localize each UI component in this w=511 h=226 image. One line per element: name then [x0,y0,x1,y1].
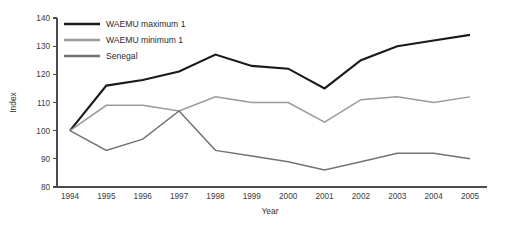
y-tick-label: 90 [41,155,51,164]
x-tick-label: 1998 [206,192,225,201]
series-line-0 [70,35,470,131]
y-axis-ticks: 8090100110120130140 [36,14,57,192]
line-chart: 8090100110120130140 19941995199619971998… [0,0,511,226]
x-tick-label: 1996 [134,192,153,201]
y-tick-label: 120 [36,70,50,79]
chart-legend: WAEMU maximum 1WAEMU minimum 1Senegal [64,19,186,61]
x-tick-label: 1994 [61,192,80,201]
y-tick-label: 80 [41,183,51,192]
series-line-2 [70,111,470,170]
chart-figure: 8090100110120130140 19941995199619971998… [0,0,511,226]
legend-label-0: WAEMU maximum 1 [106,19,186,29]
y-tick-label: 130 [36,42,50,51]
legend-label-1: WAEMU minimum 1 [106,35,183,45]
y-tick-label: 140 [36,14,50,23]
y-axis-title: Index [8,91,18,112]
series-line-1 [70,97,470,131]
x-tick-label: 2003 [388,192,407,201]
x-tick-label: 2005 [461,192,480,201]
x-tick-label: 1997 [170,192,189,201]
y-tick-label: 110 [37,99,50,108]
x-tick-label: 2002 [352,192,371,201]
x-tick-label: 2000 [279,192,298,201]
y-tick-label: 100 [36,127,50,136]
x-tick-label: 2001 [315,192,334,201]
legend-label-2: Senegal [106,51,138,61]
x-axis-ticks: 1994199519961997199819992000200120022003… [61,192,480,201]
x-tick-label: 1999 [243,192,262,201]
x-tick-label: 1995 [97,192,116,201]
x-axis-title: Year [262,206,279,216]
x-tick-label: 2004 [425,192,444,201]
